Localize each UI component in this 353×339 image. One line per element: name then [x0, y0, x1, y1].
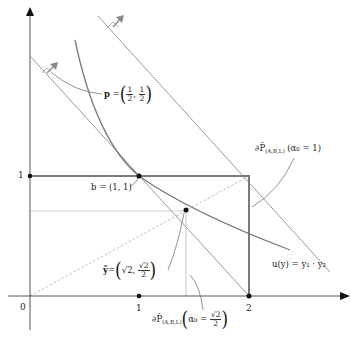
- point-y1: [28, 174, 33, 179]
- point-b: [137, 174, 142, 179]
- leader-alpha1: [252, 158, 294, 207]
- point-y-tilde: [184, 208, 189, 213]
- price-vector-label: p =(12, 12): [104, 86, 152, 103]
- origin-label: 0: [20, 303, 26, 312]
- frontier-alpha1-label: ∂P̂(A,B,L) (α₀ = 1): [255, 144, 321, 155]
- leader-p: [52, 73, 102, 94]
- y-axis-arrow-icon: [26, 7, 34, 16]
- frontier-alpha-sqrt-label: ∂P̂(A,B,L)(α₀ = √22): [152, 311, 228, 328]
- utility-label: u(y) = y₁ · y₂: [272, 260, 326, 269]
- point-y-tilde-label: ỹ=(√2, √22): [103, 262, 156, 279]
- point-x2: [247, 294, 252, 299]
- x-axis-arrow-icon: [340, 292, 350, 300]
- normal-vector-outer: [108, 15, 124, 27]
- point-x1: [137, 294, 142, 299]
- x-tick-1: 1: [136, 304, 142, 313]
- p-symbol: p: [104, 89, 110, 99]
- leader-alpha2: [190, 275, 203, 310]
- y-tick-1: 1: [18, 171, 24, 180]
- x-tick-2: 2: [246, 304, 252, 313]
- point-b-label: b = (1, 1): [91, 183, 132, 192]
- diagram-canvas: [0, 0, 353, 339]
